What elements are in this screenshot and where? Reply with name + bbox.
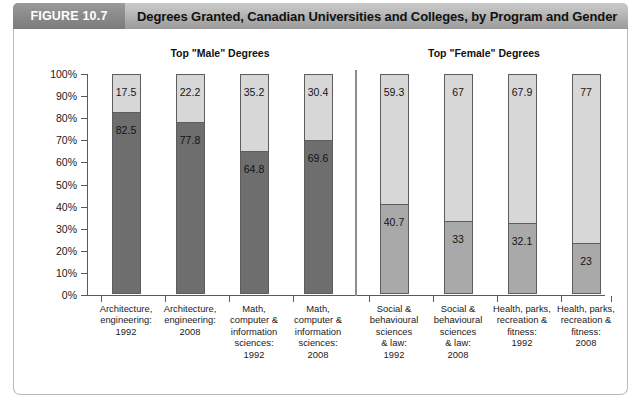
category-label-line: engineering:: [156, 314, 224, 325]
bar-segment-male: 23: [572, 243, 601, 294]
category-label-line: 1992: [92, 326, 160, 337]
x-axis-category-label: Social &behaviouralsciences& law:2008: [424, 303, 492, 360]
x-axis-category-label: Health, parks,recreation &fitness:2008: [552, 303, 620, 349]
bar-stack: 7723: [572, 74, 601, 295]
x-axis-tick: [561, 296, 562, 302]
category-label-line: 1992: [488, 337, 556, 348]
bar-segment-male: 32.1: [508, 223, 537, 294]
bar-segment-male: 64.8: [240, 151, 269, 294]
bar-value-label: 82.5: [113, 124, 140, 136]
bar-stack: 67.932.1: [508, 74, 537, 295]
bar-segment-male: 77.8: [176, 122, 205, 294]
y-axis-tick: [81, 273, 87, 274]
x-axis-category-label: Social &behaviouralsciences& law:1992: [360, 303, 428, 360]
bar-value-label: 64.8: [241, 163, 268, 175]
y-axis-tick: [81, 185, 87, 186]
category-label-line: Social &: [360, 303, 428, 314]
category-label-line: recreation &: [552, 314, 620, 325]
plot-area: 0%10%20%30%40%50%60%70%80%90%100% 17.582…: [87, 74, 605, 296]
x-axis-category-label: Architecture,engineering:2008: [156, 303, 224, 337]
category-label-line: fitness:: [552, 326, 620, 337]
y-axis-tick-label: 30%: [56, 223, 77, 235]
category-label-line: Architecture,: [92, 303, 160, 314]
x-axis-tick: [165, 296, 166, 302]
category-label-line: engineering:: [92, 314, 160, 325]
bar-value-label: 17.5: [113, 86, 140, 98]
group-divider: [355, 70, 357, 296]
category-label-line: sciences: [424, 326, 492, 337]
x-axis-tick: [229, 296, 230, 302]
bar-value-label: 77.8: [177, 134, 204, 146]
y-axis-tick: [81, 207, 87, 208]
bar-segment-female: 59.3: [380, 74, 409, 205]
y-axis-tick-label: 40%: [56, 201, 77, 213]
x-axis-tick: [369, 296, 370, 302]
category-label-line: 1992: [360, 349, 428, 360]
y-axis-line: [87, 74, 88, 296]
x-axis-category-label: Health, parks,recreation &fitness:1992: [488, 303, 556, 349]
y-axis-tick: [81, 118, 87, 119]
category-label-line: Social &: [424, 303, 492, 314]
category-label-line: behavioural: [360, 314, 428, 325]
category-label-line: & law:: [360, 337, 428, 348]
category-label-line: Math,: [220, 303, 288, 314]
bar-segment-female: 30.4: [304, 74, 333, 141]
figure-header-bar: FIGURE 10.7 Degrees Granted, Canadian Un…: [13, 3, 628, 29]
bar-segment-female: 67.9: [508, 74, 537, 224]
x-axis-tick: [101, 296, 102, 302]
bar-value-label: 32.1: [509, 235, 536, 247]
bar-stack: 6733: [444, 74, 473, 295]
bar-stack: 30.469.6: [304, 74, 333, 295]
bar-segment-female: 35.2: [240, 74, 269, 152]
y-axis-tick-label: 70%: [56, 134, 77, 146]
category-label-line: & law:: [424, 337, 492, 348]
category-label-line: information: [284, 326, 352, 337]
figure-title: Degrees Granted, Canadian Universities a…: [125, 9, 617, 24]
bar-value-label: 22.2: [177, 86, 204, 98]
category-label-line: fitness:: [488, 326, 556, 337]
x-axis-category-label: Math,computer &informationsciences:2008: [284, 303, 352, 360]
bar-value-label: 77: [573, 86, 600, 98]
x-axis-category-label: Architecture,engineering:1992: [92, 303, 160, 337]
figure-number-box: FIGURE 10.7: [13, 3, 125, 29]
category-label-line: Health, parks,: [552, 303, 620, 314]
y-axis-tick: [81, 251, 87, 252]
y-axis-tick: [81, 96, 87, 97]
category-label-line: sciences: [360, 326, 428, 337]
y-axis-tick-label: 50%: [56, 179, 77, 191]
y-axis-tick-label: 10%: [56, 267, 77, 279]
category-label-line: 1992: [220, 349, 288, 360]
bar-segment-male: 82.5: [112, 112, 141, 294]
bar-value-label: 35.2: [241, 86, 268, 98]
bar-stack: 59.340.7: [380, 74, 409, 295]
figure-number-label: FIGURE 10.7: [30, 9, 107, 23]
y-axis-tick-label: 0%: [62, 289, 77, 301]
x-axis-tick: [611, 296, 612, 302]
category-label-line: sciences:: [284, 337, 352, 348]
y-axis-tick-label: 80%: [56, 112, 77, 124]
bar-segment-female: 67: [444, 74, 473, 222]
x-axis-tick: [433, 296, 434, 302]
bar-value-label: 33: [445, 233, 472, 245]
y-axis-tick-label: 60%: [56, 156, 77, 168]
bar-segment-male: 69.6: [304, 140, 333, 294]
figure-container: FIGURE 10.7 Degrees Granted, Canadian Un…: [0, 0, 641, 401]
y-axis-tick-label: 20%: [56, 245, 77, 257]
category-label-line: 2008: [424, 349, 492, 360]
bar-value-label: 30.4: [305, 86, 332, 98]
x-axis-tick: [293, 296, 294, 302]
x-axis-tick: [497, 296, 498, 302]
bar-segment-male: 33: [444, 221, 473, 294]
y-axis-tick-label: 90%: [56, 90, 77, 102]
bar-stack: 22.277.8: [176, 74, 205, 295]
category-label-line: Math,: [284, 303, 352, 314]
category-label-line: 2008: [284, 349, 352, 360]
bar-stack: 35.264.8: [240, 74, 269, 295]
y-axis-tick: [81, 74, 87, 75]
category-label-line: recreation &: [488, 314, 556, 325]
y-axis-tick: [81, 229, 87, 230]
category-label-line: computer &: [284, 314, 352, 325]
bar-value-label: 23: [573, 255, 600, 267]
category-label-line: information: [220, 326, 288, 337]
category-label-line: behavioural: [424, 314, 492, 325]
